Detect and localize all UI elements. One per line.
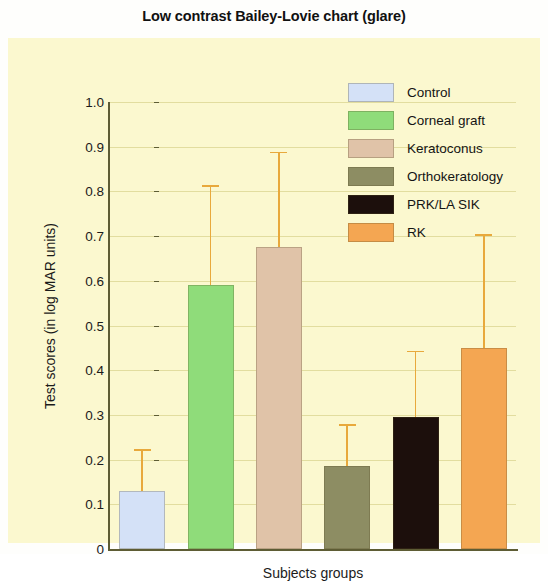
error-bar [210,187,212,285]
legend-swatch [348,139,394,158]
legend-item[interactable]: Control [348,78,538,106]
error-bar [346,426,348,466]
y-axis-title: Test scores (in log MAR units) [42,186,58,446]
legend-item-label: Corneal graft [407,113,485,128]
legend-item[interactable]: Orthokeratology [348,162,538,190]
legend-swatch [348,111,394,130]
x-axis-line [108,549,518,551]
bar[interactable] [324,466,370,549]
error-bar-cap [407,351,424,353]
y-axis-tick-label: 0.9 [62,139,104,154]
bar-group [119,102,165,549]
y-axis-tick-label: 0 [62,542,104,557]
bar[interactable] [461,348,507,549]
legend-swatch [348,223,394,242]
chart-title: Low contrast Bailey-Lovie chart (glare) [0,8,548,24]
y-axis-tick-label: 0.2 [62,452,104,467]
legend-item[interactable]: Keratoconus [348,134,538,162]
y-axis-tick-label: 1.0 [62,95,104,110]
legend: ControlCorneal graftKeratoconusOrthokera… [348,78,538,246]
y-axis-tick-mark [154,549,159,550]
legend-swatch [348,83,394,102]
legend-item[interactable]: Corneal graft [348,106,538,134]
legend-item-label: PRK/LA SIK [407,197,480,212]
legend-swatch [348,167,394,186]
error-bar [141,451,143,491]
error-bar [415,352,417,417]
y-axis-tick-label: 0.5 [62,318,104,333]
legend-item[interactable]: PRK/LA SIK [348,190,538,218]
legend-item-label: Keratoconus [407,141,483,156]
y-axis-tick-label: 0.7 [62,229,104,244]
y-axis-tick-label: 0.3 [62,407,104,422]
bar[interactable] [256,247,302,549]
legend-item[interactable]: RK [348,218,538,246]
y-axis-tick-label: 0.4 [62,363,104,378]
bar[interactable] [393,417,439,549]
bar[interactable] [188,285,234,549]
error-bar [278,153,280,247]
bar-group [256,102,302,549]
x-axis-title: Subjects groups [108,565,518,581]
legend-swatch [348,195,394,214]
y-axis-tick-label: 0.8 [62,184,104,199]
legend-item-label: Orthokeratology [407,169,503,184]
error-bar [483,236,485,348]
error-bar-cap [134,449,151,451]
legend-item-label: RK [407,225,426,240]
y-axis-tick-label: 0.1 [62,497,104,512]
bar[interactable] [119,491,165,549]
error-bar-cap [339,424,356,426]
error-bar-cap [270,152,287,154]
bar-group [188,102,234,549]
y-axis-tick-label: 0.6 [62,273,104,288]
y-axis-ticks: 1.00.90.80.70.60.50.40.30.20.10 [58,38,104,543]
error-bar-cap [202,185,219,187]
plot-panel: 1.00.90.80.70.60.50.40.30.20.10 Test sco… [8,38,540,543]
legend-item-label: Control [407,85,451,100]
